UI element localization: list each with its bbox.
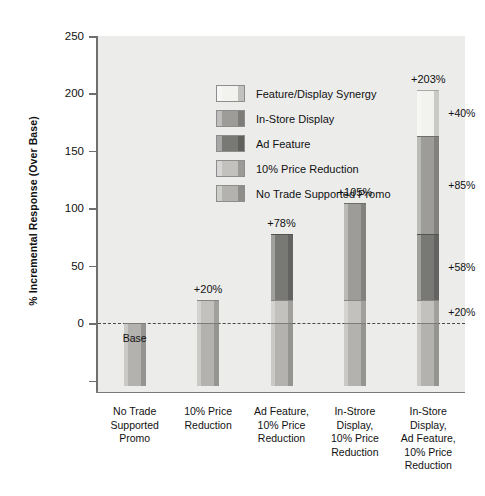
legend-item[interactable]: 10% Price Reduction — [216, 157, 431, 180]
y-tick-mark — [89, 93, 98, 95]
bar-segment[interactable] — [417, 234, 439, 301]
bar-segment-base[interactable] — [271, 323, 293, 386]
bar-segment[interactable] — [197, 300, 219, 323]
y-tick-mark — [89, 151, 98, 153]
x-category-label-line: Reduction — [385, 459, 471, 473]
x-category-label-line: Ad Feature, — [385, 432, 471, 446]
y-tick-label: 200 — [65, 87, 84, 99]
x-category-label-line: Promo — [92, 432, 178, 446]
y-tick-label: 150 — [65, 145, 84, 157]
y-tick-mark — [89, 36, 98, 38]
segment-callout-label: +58% — [448, 261, 475, 273]
x-category-label-line: Display, — [385, 419, 471, 433]
y-axis-title: % Incremental Response (Over Base) — [27, 96, 39, 326]
x-category-label-line: In-Store — [385, 405, 471, 419]
legend-item-label: Ad Feature — [256, 138, 310, 150]
x-category-label: In-StoreDisplay,Ad Feature,10% PriceRedu… — [385, 405, 471, 473]
bar-segment-base[interactable] — [417, 323, 439, 386]
y-tick-mark — [89, 266, 98, 268]
legend-item[interactable]: Ad Feature — [216, 132, 431, 155]
y-tick-mark — [89, 323, 98, 325]
y-tick-label: 100 — [65, 202, 84, 214]
segment-callout-label: +40% — [448, 107, 475, 119]
legend-item-label: In-Store Display — [256, 113, 334, 125]
legend-item-label: Feature/Display Synergy — [256, 88, 376, 100]
bar-segment-base[interactable] — [344, 323, 366, 386]
bar-segment[interactable] — [344, 203, 366, 301]
chart-legend: Feature/Display SynergyIn-Store DisplayA… — [216, 82, 431, 207]
legend-item-label: 10% Price Reduction — [256, 163, 359, 175]
x-category-label-line: 10% Price — [385, 446, 471, 460]
legend-swatch-icon — [216, 85, 245, 102]
y-tick-mark — [89, 208, 98, 210]
legend-swatch-icon — [216, 185, 245, 202]
bar-segment[interactable] — [417, 300, 439, 323]
segment-callout-label: +20% — [448, 306, 475, 318]
bar-segment[interactable] — [271, 234, 293, 301]
legend-item[interactable]: Feature/Display Synergy — [216, 82, 431, 105]
chart-canvas: % Incremental Response (Over Base) 25020… — [0, 0, 485, 496]
bar-total-label: +78% — [267, 217, 295, 229]
bar-total-label: +20% — [194, 283, 222, 295]
y-tick-label: 50 — [71, 260, 84, 272]
bar-segment[interactable] — [271, 300, 293, 323]
y-tick-label: 0 — [78, 317, 84, 329]
segment-callout-label: +85% — [448, 179, 475, 191]
bar-segment[interactable] — [344, 300, 366, 323]
base-label: Base — [123, 332, 147, 344]
plot-area: 250200150100500 Base+20%+78%+105%+203%+4… — [98, 36, 465, 392]
y-tick-label: 250 — [65, 30, 84, 42]
legend-swatch-icon — [216, 135, 245, 152]
legend-item[interactable]: No Trade Supported Promo — [216, 182, 431, 205]
y-tick-mark — [89, 381, 98, 383]
bar-segment-base[interactable] — [197, 323, 219, 386]
legend-item-label: No Trade Supported Promo — [256, 188, 391, 200]
legend-swatch-icon — [216, 110, 245, 127]
legend-swatch-icon — [216, 160, 245, 177]
legend-item[interactable]: In-Store Display — [216, 107, 431, 130]
